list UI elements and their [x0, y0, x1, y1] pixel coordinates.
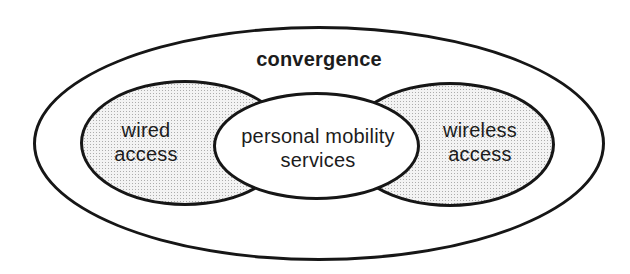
convergence-label: convergence: [219, 47, 419, 71]
personal-mobility-label: personal mobility services: [216, 124, 420, 172]
personal-mobility-label-line2: services: [216, 148, 420, 172]
wired-access-label-line2: access: [66, 142, 226, 166]
wireless-access-label-line1: wireless: [400, 118, 560, 142]
convergence-venn-diagram: convergence wired access personal mobili…: [0, 0, 630, 274]
wired-access-label-line1: wired: [66, 118, 226, 142]
wireless-access-label: wireless access: [400, 118, 560, 166]
wireless-access-label-line2: access: [400, 142, 560, 166]
personal-mobility-label-line1: personal mobility: [216, 124, 420, 148]
wired-access-label: wired access: [66, 118, 226, 166]
